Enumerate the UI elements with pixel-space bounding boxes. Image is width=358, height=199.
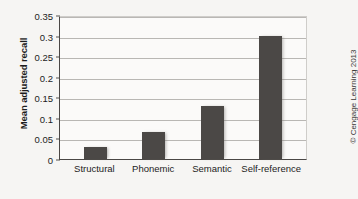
bar-slot	[66, 17, 125, 159]
y-axis-tick-label: 0	[48, 155, 53, 166]
bar-structural	[84, 147, 107, 159]
bar-slot	[242, 17, 301, 159]
bar-semantic	[201, 106, 224, 159]
plot-area	[59, 16, 307, 160]
x-axis-category-labels: StructuralPhonemicSemanticSelf-reference	[59, 163, 307, 174]
y-axis-tick-label: 0.35	[35, 11, 54, 22]
y-axis-tick-label: 0.1	[40, 113, 53, 124]
x-axis-label-structural: Structural	[65, 163, 124, 174]
x-axis-label-semantic: Semantic	[183, 163, 242, 174]
bar-self-reference	[259, 36, 282, 159]
y-axis-tick-label: 0.05	[35, 134, 54, 145]
bar-slot	[183, 17, 242, 159]
x-axis-label-phonemic: Phonemic	[124, 163, 183, 174]
y-axis-tick-label: 0.25	[35, 52, 54, 63]
copyright-credit: © Cengage Learning 2013	[349, 12, 358, 182]
bar-series	[60, 17, 306, 159]
y-axis-tick-label: 0.15	[35, 93, 54, 104]
gridline	[60, 161, 306, 162]
y-axis-tick-label: 0.2	[40, 72, 53, 83]
bar-phonemic	[142, 132, 165, 159]
y-axis-tick-labels: 00.050.10.150.20.250.30.35	[18, 16, 56, 160]
y-axis-tick-label: 0.3	[40, 31, 53, 42]
bar-slot	[125, 17, 184, 159]
x-axis-label-self-reference: Self-reference	[241, 163, 301, 174]
